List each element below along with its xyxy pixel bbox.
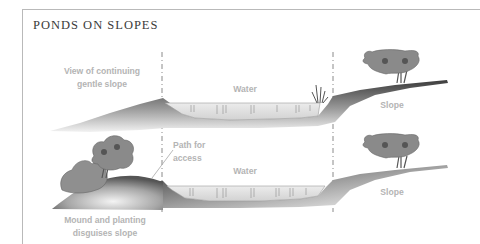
label-upper-slope: Slope <box>372 100 412 111</box>
label-mound-planting: Mound and planting disguises slope <box>55 215 155 239</box>
label-upper-water: Water <box>225 84 265 95</box>
upper-right-tree-icon <box>363 50 419 83</box>
lower-water <box>167 186 325 201</box>
label-lower-slope: Slope <box>372 187 412 198</box>
label-line: access <box>173 153 205 164</box>
label-view-gentle-slope: View of continuing gentle slope <box>52 66 152 90</box>
label-line: disguises slope <box>55 228 155 239</box>
label-line: Path for <box>173 140 205 151</box>
label-lower-water: Water <box>225 166 265 177</box>
label-line: gentle slope <box>52 79 152 90</box>
label-path-for-access: Path for access <box>173 140 205 164</box>
pond-cross-sections <box>0 0 480 244</box>
lower-right-tree-icon <box>363 134 419 168</box>
label-line: View of continuing <box>52 66 152 77</box>
marginal-plant-icon <box>312 85 328 103</box>
label-line: Mound and planting <box>55 215 155 226</box>
